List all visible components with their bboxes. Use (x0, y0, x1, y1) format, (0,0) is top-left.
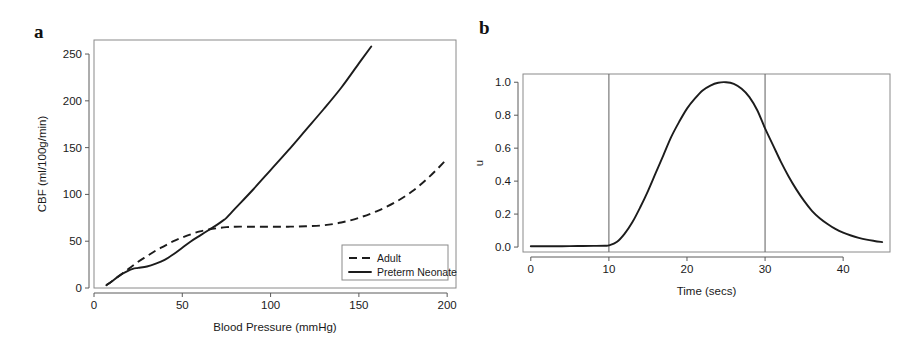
curve-u (531, 82, 882, 246)
y-ticklabel-1: 0.2 (495, 208, 511, 220)
y-ticklabel-5: 250 (63, 48, 82, 60)
legend-label-preterm-neonate: Preterm Neonate (377, 266, 457, 278)
curve-preterm-neonate (106, 47, 371, 286)
x-ticklabel-0: 0 (91, 299, 97, 311)
y-axis-title: u (473, 160, 485, 166)
legend-label-adult: Adult (377, 252, 401, 264)
x-ticklabel-2: 20 (681, 263, 694, 275)
panel-b-plot: 0.00.20.40.60.81.0010203040Time (secs)u (461, 0, 922, 349)
y-ticklabel-5: 1.0 (495, 76, 511, 88)
y-axis-title: CBF (ml/100g/min) (36, 116, 48, 213)
panel-b: b 0.00.20.40.60.81.0010203040Time (secs)… (461, 0, 922, 349)
x-ticklabel-2: 100 (261, 299, 280, 311)
x-axis-title: Blood Pressure (mmHg) (213, 321, 337, 333)
x-ticklabel-1: 10 (602, 263, 615, 275)
y-ticklabel-3: 0.6 (495, 142, 511, 154)
x-ticklabel-3: 30 (759, 263, 772, 275)
y-ticklabel-2: 100 (63, 188, 82, 200)
x-ticklabel-0: 0 (528, 263, 534, 275)
figure-container: a 050100150200250050100150200Blood Press… (0, 0, 922, 349)
panel-a: a 050100150200250050100150200Blood Press… (0, 0, 461, 349)
y-ticklabel-2: 0.4 (495, 175, 512, 187)
x-ticklabel-4: 200 (438, 299, 457, 311)
y-ticklabel-3: 150 (63, 142, 82, 154)
y-ticklabel-0: 0 (76, 282, 82, 294)
y-ticklabel-4: 200 (63, 95, 82, 107)
x-ticklabel-1: 50 (176, 299, 189, 311)
y-ticklabel-1: 50 (69, 235, 82, 247)
legend: AdultPreterm Neonate (342, 245, 457, 280)
x-axis-title: Time (secs) (677, 285, 737, 297)
panel-a-plot: 050100150200250050100150200Blood Pressur… (0, 0, 461, 349)
x-ticklabel-4: 40 (837, 263, 850, 275)
plot-frame (523, 74, 890, 252)
y-ticklabel-0: 0.0 (495, 241, 511, 253)
curves-group (531, 82, 882, 246)
y-ticklabel-4: 0.8 (495, 109, 511, 121)
x-ticklabel-3: 150 (349, 299, 368, 311)
